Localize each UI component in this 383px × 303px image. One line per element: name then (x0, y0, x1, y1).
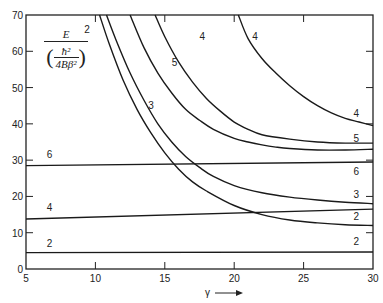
x-tick-label: 15 (159, 273, 171, 284)
series-line (155, 15, 373, 143)
x-tick-label: 20 (229, 273, 241, 284)
x-tick-label: 30 (367, 273, 379, 284)
left-paren: ( (46, 44, 53, 69)
series-line (26, 162, 373, 166)
curve-label: 5 (172, 57, 178, 68)
right-paren: ) (79, 44, 86, 69)
curve-label: 4 (354, 108, 360, 119)
curve-label: 2 (47, 238, 53, 249)
x-tick-label: 5 (23, 273, 29, 284)
series-line (26, 209, 373, 219)
curve-label: 6 (354, 166, 360, 177)
curve-label: 3 (354, 189, 360, 200)
x-axis-label: γ (205, 287, 210, 298)
curve-label: 4 (47, 202, 53, 213)
curve-label: 4 (252, 31, 258, 42)
y-tick-label: 60 (12, 46, 24, 57)
y-axis-label-fraction: ħ²4Bβ² (54, 45, 79, 70)
curve-label: 2 (354, 236, 360, 247)
y-tick-label: 30 (12, 155, 24, 166)
series-line (26, 252, 373, 253)
curve-label: 2 (354, 211, 360, 222)
y-tick-label: 40 (12, 119, 24, 130)
series-line (100, 15, 373, 225)
y-axis-label: E (ħ²4Bβ²) (30, 28, 102, 70)
y-tick-label: 20 (12, 191, 24, 202)
y-tick-label: 10 (12, 228, 24, 239)
y-tick-label: 50 (12, 83, 24, 94)
curve-label: 3 (148, 100, 154, 111)
x-axis-arrow-icon (215, 290, 243, 296)
x-tick-label: 25 (298, 273, 310, 284)
series-line (107, 15, 373, 204)
y-axis-label-numerator: E (44, 28, 88, 42)
x-tick-label: 10 (90, 273, 102, 284)
y-axis-label-inner-numerator: ħ² (54, 45, 79, 58)
curve-label: 4 (200, 31, 206, 42)
y-tick-label: 0 (17, 264, 23, 275)
curve-label: 6 (47, 149, 53, 160)
curve-label: 5 (354, 133, 360, 144)
y-axis-label-inner-denominator: 4Bβ² (54, 58, 79, 70)
y-tick-label: 70 (12, 10, 24, 21)
